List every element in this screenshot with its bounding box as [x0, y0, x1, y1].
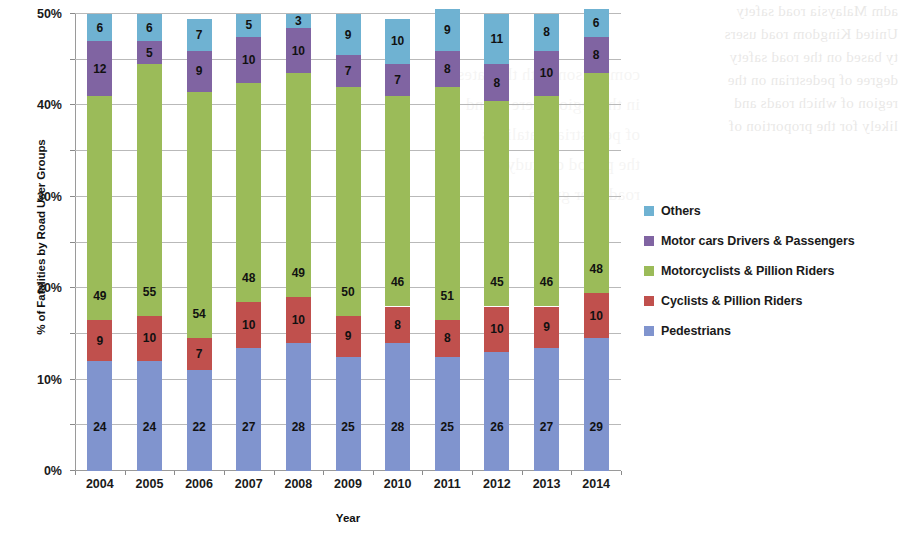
- bar-value-label: 24: [143, 421, 156, 433]
- bar-column[interactable]: 2275497: [187, 14, 212, 471]
- bar-segment[interactable]: 26: [484, 352, 509, 471]
- bar-segment[interactable]: 6: [137, 14, 162, 41]
- y-axis-tick-label: 20%: [37, 281, 62, 295]
- bar-segment[interactable]: 24: [137, 361, 162, 471]
- bar-value-label: 7: [394, 74, 401, 86]
- bar-segment[interactable]: 50: [336, 87, 361, 316]
- bar-segment[interactable]: 51: [435, 87, 460, 320]
- bar-segment[interactable]: 10: [385, 19, 410, 65]
- plot-area: 0%10%20%30%40%50%60%70%80%90%100% 249491…: [75, 14, 621, 471]
- bar-segment[interactable]: 9: [87, 320, 112, 361]
- bar-column[interactable]: 28846710: [385, 14, 410, 471]
- legend-item[interactable]: Motor cars Drivers & Passengers: [644, 226, 855, 256]
- bar-segment[interactable]: 27: [236, 348, 261, 471]
- bar-segment[interactable]: 10: [286, 28, 311, 74]
- y-axis-tick-mark: 50%: [70, 242, 75, 243]
- bar-segment[interactable]: 9: [336, 316, 361, 357]
- bar-segment[interactable]: 9: [187, 51, 212, 92]
- legend-swatch-icon: [644, 206, 654, 216]
- bar-segment[interactable]: 10: [137, 316, 162, 362]
- bar-segment[interactable]: 10: [584, 293, 609, 339]
- bar-segment[interactable]: 7: [187, 19, 212, 51]
- bar-segment[interactable]: 48: [236, 83, 261, 302]
- bar-value-label: 51: [441, 290, 454, 302]
- bar-segment[interactable]: 9: [534, 307, 559, 348]
- bar-column[interactable]: 261045811: [484, 14, 509, 471]
- bar-column[interactable]: 27946108: [534, 14, 559, 471]
- legend-item[interactable]: Others: [644, 196, 855, 226]
- bar-segment[interactable]: 10: [236, 302, 261, 348]
- bar-column[interactable]: 24105556: [137, 14, 162, 471]
- bar-value-label: 8: [444, 332, 451, 344]
- bar-segment[interactable]: 7: [336, 55, 361, 87]
- bar-segment[interactable]: 8: [385, 307, 410, 344]
- y-axis-title: % of Fatalities by Road User Groups: [35, 102, 47, 372]
- legend-item[interactable]: Motorcyclists & Pillion Riders: [644, 256, 855, 286]
- bar-segment[interactable]: 45: [484, 101, 509, 307]
- bar-segment[interactable]: 25: [435, 357, 460, 471]
- bar-segment[interactable]: 6: [584, 9, 609, 36]
- bar-segment[interactable]: 48: [584, 73, 609, 292]
- legend-swatch-icon: [644, 236, 654, 246]
- bar-segment[interactable]: 8: [435, 51, 460, 88]
- bar-value-label: 49: [292, 267, 305, 279]
- bar-segment[interactable]: 22: [187, 370, 212, 471]
- x-axis-tick-mark: [373, 471, 374, 475]
- bar-segment[interactable]: 10: [484, 307, 509, 353]
- bar-value-label: 10: [490, 323, 503, 335]
- bar-segment[interactable]: 24: [87, 361, 112, 471]
- bar-segment[interactable]: 10: [236, 37, 261, 83]
- bar-segment[interactable]: 8: [484, 64, 509, 101]
- bar-segment[interactable]: 28: [286, 343, 311, 471]
- bar-value-label: 7: [196, 29, 203, 41]
- bar-value-label: 8: [593, 49, 600, 61]
- legend-label: Motor cars Drivers & Passengers: [661, 234, 855, 248]
- legend-item[interactable]: Cyclists & Pillion Riders: [644, 286, 855, 316]
- bar-column[interactable]: 2585189: [435, 14, 460, 471]
- bar-segment[interactable]: 7: [385, 64, 410, 96]
- bar-segment[interactable]: 9: [336, 14, 361, 55]
- bar-value-label: 54: [192, 308, 205, 320]
- stacked-bar-chart: adm Malaysia road safetyUnited Kingdom r…: [0, 0, 898, 538]
- bar-segment[interactable]: 49: [286, 73, 311, 297]
- bar-segment[interactable]: 12: [87, 41, 112, 96]
- bar-segment[interactable]: 8: [534, 14, 559, 51]
- bar-column[interactable]: 29104886: [584, 14, 609, 471]
- bar-value-label: 27: [242, 421, 255, 433]
- bar-segment[interactable]: 8: [435, 320, 460, 357]
- bar-value-label: 6: [96, 22, 103, 34]
- bar-column[interactable]: 281049103: [286, 14, 311, 471]
- bar-segment[interactable]: 9: [435, 9, 460, 50]
- bar-segment[interactable]: 5: [236, 14, 261, 37]
- bar-value-label: 27: [540, 421, 553, 433]
- bar-value-label: 46: [540, 276, 553, 288]
- bar-segment[interactable]: 3: [286, 14, 311, 28]
- x-axis-tick-mark: [174, 471, 175, 475]
- bar-segment[interactable]: 54: [187, 92, 212, 339]
- bar-value-label: 3: [295, 15, 302, 27]
- x-axis-tick-mark: [522, 471, 523, 475]
- bar-segment[interactable]: 6: [87, 14, 112, 41]
- bar-column[interactable]: 271048105: [236, 14, 261, 471]
- bar-segment[interactable]: 49: [87, 96, 112, 320]
- bar-segment[interactable]: 7: [187, 338, 212, 370]
- bar-segment[interactable]: 55: [137, 64, 162, 315]
- legend-item[interactable]: Pedestrians: [644, 316, 855, 346]
- bar-column[interactable]: 2595079: [336, 14, 361, 471]
- bar-segment[interactable]: 25: [336, 357, 361, 471]
- bar-segment[interactable]: 11: [484, 14, 509, 64]
- bar-segment[interactable]: 28: [385, 343, 410, 471]
- y-axis-tick-mark: 10%: [70, 424, 75, 425]
- bar-segment[interactable]: 27: [534, 348, 559, 471]
- bar-segment[interactable]: 8: [584, 37, 609, 74]
- bar-segment[interactable]: 5: [137, 41, 162, 64]
- bar-segment[interactable]: 10: [286, 297, 311, 343]
- bar-column[interactable]: 24949126: [87, 14, 112, 471]
- bar-value-label: 7: [345, 65, 352, 77]
- y-axis-tick-label: 10%: [37, 373, 62, 387]
- bar-segment[interactable]: 46: [385, 96, 410, 306]
- legend-label: Others: [661, 204, 701, 218]
- bar-segment[interactable]: 46: [534, 96, 559, 306]
- bar-segment[interactable]: 29: [584, 338, 609, 471]
- bar-segment[interactable]: 10: [534, 51, 559, 97]
